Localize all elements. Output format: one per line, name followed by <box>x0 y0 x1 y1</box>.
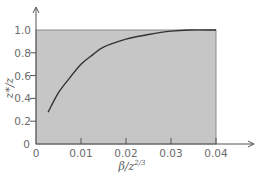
y-tick-label: 1.0 <box>14 24 31 36</box>
y-tick-label: 0.2 <box>14 115 31 127</box>
x-tick-label: 0.03 <box>159 147 182 159</box>
y-axis-ticks: 00.20.40.60.81.0 <box>14 24 36 150</box>
x-tick-label: 0.04 <box>204 147 228 159</box>
x-tick-label: 0.01 <box>69 147 92 159</box>
x-axis-title-base: β/z <box>117 160 134 173</box>
y-tick-label: 0.8 <box>14 47 31 59</box>
y-tick-label: 0.4 <box>14 92 31 104</box>
chart: 00.010.020.030.04 00.20.40.60.81.0 z*/z … <box>0 0 260 178</box>
x-tick-label: 0 <box>33 147 40 159</box>
x-tick-label: 0.02 <box>114 147 137 159</box>
x-axis-title-exponent: 2/3 <box>133 159 146 167</box>
y-axis-title: z*/z <box>3 77 16 99</box>
y-tick-label: 0 <box>23 138 30 150</box>
y-tick-label: 0.6 <box>14 70 31 82</box>
x-axis-title: β/z2/3 <box>117 159 146 173</box>
